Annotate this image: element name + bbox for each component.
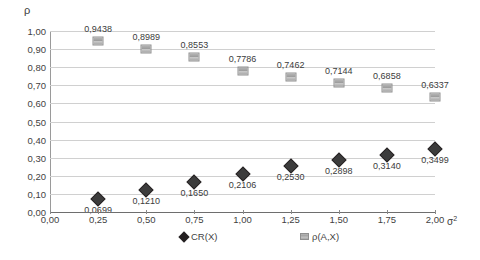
data-point-label: 0,2106 <box>229 180 257 190</box>
data-point-square <box>237 67 248 76</box>
legend-item[interactable]: ρ(A,X) <box>300 231 339 242</box>
x-axis-title: σ2 <box>447 215 457 227</box>
data-point-label: 0,1650 <box>181 188 209 198</box>
y-axis-tick-label: 0,30 <box>12 152 46 163</box>
y-axis-tick-label: 0,50 <box>12 116 46 127</box>
x-axis-tick-mark <box>146 210 147 214</box>
x-axis-tick-label: 1,25 <box>281 214 300 225</box>
y-axis-tick-label: 0,70 <box>12 80 46 91</box>
legend-item-label: ρ(A,X) <box>312 231 339 242</box>
data-point-label: 0,7144 <box>325 66 353 76</box>
data-point-label: 0,2530 <box>277 172 305 182</box>
y-axis-tick-label: 0,40 <box>12 134 46 145</box>
x-axis-tick-label: 0,50 <box>137 214 156 225</box>
x-axis-tick-mark <box>50 210 51 214</box>
x-axis-tick-mark <box>435 210 436 214</box>
x-axis-tick-label: 1,75 <box>378 214 397 225</box>
data-point-label: 0,9438 <box>84 24 112 34</box>
x-axis-tick-mark <box>243 210 244 214</box>
gridline <box>50 49 435 50</box>
data-point-label: 0,6337 <box>421 80 449 90</box>
y-axis-tick-label: 0,10 <box>12 188 46 199</box>
gridline <box>50 158 435 159</box>
x-axis-tick-mark <box>98 210 99 214</box>
x-axis-tick-label: 2,00 <box>426 214 445 225</box>
data-point-label: 0,7786 <box>229 54 257 64</box>
x-axis-tick-label: 1,00 <box>233 214 252 225</box>
data-point-square <box>285 72 296 81</box>
x-axis-tick-label: 0,25 <box>89 214 108 225</box>
data-point-square <box>189 53 200 62</box>
data-point-square <box>430 93 441 102</box>
x-axis-tick-mark <box>291 210 292 214</box>
data-point-square <box>141 45 152 54</box>
gridline <box>50 140 435 141</box>
gridline <box>50 194 435 195</box>
y-axis-tick-labels: 0,000,100,200,300,400,500,600,700,800,90… <box>8 31 46 212</box>
data-point-label: 0,3499 <box>421 155 449 165</box>
data-point-label: 0,7462 <box>277 60 305 70</box>
y-axis-tick-label: 0,90 <box>12 44 46 55</box>
gridline <box>50 85 435 86</box>
y-axis-title: ρ <box>24 4 30 16</box>
y-axis-tick-label: 1,00 <box>12 26 46 37</box>
gridline <box>50 103 435 104</box>
chart-legend: CR(X)ρ(A,X) <box>50 231 435 249</box>
x-axis-tick-mark <box>387 210 388 214</box>
gridline <box>50 122 435 123</box>
data-point-label: 0,8553 <box>181 40 209 50</box>
legend-item[interactable]: CR(X) <box>180 231 217 242</box>
x-axis-tick-label: 0,00 <box>41 214 60 225</box>
legend-square-icon <box>300 233 309 240</box>
y-axis-tick-label: 0,80 <box>12 62 46 73</box>
data-point-square <box>381 83 392 92</box>
data-point-label: 0,2898 <box>325 166 353 176</box>
legend-diamond-icon <box>178 231 189 242</box>
scatter-chart: ρ σ2 0,000,100,200,300,400,500,600,700,8… <box>0 0 480 260</box>
x-axis-tick-mark <box>339 210 340 214</box>
x-axis-tick-labels: 0,000,250,500,751,001,251,501,752,00 <box>50 214 435 230</box>
plot-area: 0,06990,12100,16500,21060,25300,28980,31… <box>50 31 435 212</box>
data-point-label: 0,3140 <box>373 161 401 171</box>
y-axis-tick-label: 0,60 <box>12 98 46 109</box>
data-point-square <box>333 78 344 87</box>
data-point-label: 0,6858 <box>373 71 401 81</box>
x-axis-tick-label: 0,75 <box>185 214 204 225</box>
data-point-label: 0,8989 <box>132 32 160 42</box>
data-point-square <box>93 37 104 46</box>
x-axis-tick-mark <box>194 210 195 214</box>
y-axis-tick-label: 0,20 <box>12 170 46 181</box>
legend-item-label: CR(X) <box>191 231 217 242</box>
x-axis-tick-label: 1,50 <box>330 214 349 225</box>
data-point-label: 0,1210 <box>132 196 160 206</box>
